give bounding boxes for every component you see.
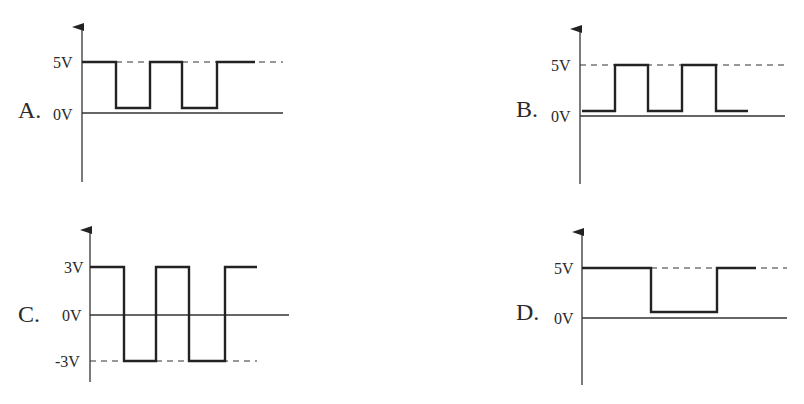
- option-a-panel: A. 5V 0V: [18, 27, 283, 182]
- square-wave: [582, 65, 748, 111]
- y-tick-5v: 5V: [551, 57, 571, 74]
- option-c-panel: C. 3V 0V -3V: [18, 230, 289, 382]
- y-tick-3v: 3V: [64, 259, 84, 276]
- square-wave: [90, 267, 257, 361]
- option-label: D.: [516, 299, 539, 325]
- option-label: A.: [18, 97, 41, 123]
- y-tick-0v: 0V: [551, 108, 571, 125]
- y-tick-neg3v: -3V: [55, 353, 80, 370]
- option-label: B.: [516, 96, 538, 122]
- waveform-options-diagram: A. 5V 0V B. 5V 0V C. 3V 0V -3V D. 5V 0V: [0, 0, 804, 404]
- y-tick-0v: 0V: [62, 307, 82, 324]
- option-label: C.: [18, 301, 40, 327]
- y-tick-0v: 0V: [554, 310, 574, 327]
- y-tick-5v: 5V: [554, 260, 574, 277]
- square-wave: [582, 268, 756, 312]
- option-b-panel: B. 5V 0V: [516, 29, 785, 184]
- square-wave: [82, 62, 255, 108]
- option-d-panel: D. 5V 0V: [516, 232, 787, 385]
- y-tick-0v: 0V: [53, 106, 73, 123]
- y-tick-5v: 5V: [53, 54, 73, 71]
